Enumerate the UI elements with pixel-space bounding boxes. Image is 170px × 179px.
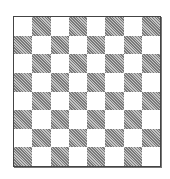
board-square[interactable] [105,17,123,36]
board-square[interactable] [69,92,87,111]
board-square[interactable] [32,92,50,111]
board-square[interactable] [124,92,142,111]
board-square[interactable] [87,36,105,55]
board-square[interactable] [142,73,160,92]
board-square[interactable] [105,129,123,148]
board-square[interactable] [32,110,50,129]
board-square[interactable] [124,129,142,148]
board-square[interactable] [87,54,105,73]
board-square[interactable] [32,36,50,55]
board-square[interactable] [14,73,32,92]
board-square[interactable] [87,92,105,111]
board-square[interactable] [87,73,105,92]
board-square[interactable] [14,54,32,73]
board-square[interactable] [32,147,50,166]
board-square[interactable] [87,129,105,148]
board-square[interactable] [87,147,105,166]
board-square[interactable] [105,36,123,55]
board-square[interactable] [69,129,87,148]
board-square[interactable] [69,147,87,166]
board-square[interactable] [124,36,142,55]
board-square[interactable] [105,92,123,111]
board-square[interactable] [14,92,32,111]
board-square[interactable] [124,73,142,92]
board-square[interactable] [32,129,50,148]
board-square[interactable] [105,73,123,92]
board-square[interactable] [51,17,69,36]
board-square[interactable] [51,36,69,55]
board-square[interactable] [32,54,50,73]
board-square[interactable] [51,129,69,148]
board-square[interactable] [142,17,160,36]
board-square[interactable] [14,129,32,148]
board-square[interactable] [142,36,160,55]
board-square[interactable] [32,17,50,36]
board-square[interactable] [69,73,87,92]
board-square[interactable] [14,147,32,166]
board-square[interactable] [87,110,105,129]
board-square[interactable] [105,110,123,129]
board-square[interactable] [69,110,87,129]
board-square[interactable] [14,17,32,36]
board-square[interactable] [69,54,87,73]
board-square[interactable] [142,147,160,166]
board-square[interactable] [142,92,160,111]
board-square[interactable] [69,17,87,36]
checkerboard [13,16,161,167]
board-square[interactable] [51,73,69,92]
board-square[interactable] [14,110,32,129]
board-square[interactable] [142,129,160,148]
board-square[interactable] [51,147,69,166]
board-square[interactable] [142,110,160,129]
board-square[interactable] [105,147,123,166]
board-square[interactable] [69,36,87,55]
board-square[interactable] [51,110,69,129]
board-square[interactable] [105,54,123,73]
board-square[interactable] [51,92,69,111]
board-square[interactable] [14,36,32,55]
board-square[interactable] [142,54,160,73]
board-square[interactable] [124,17,142,36]
board-square[interactable] [32,73,50,92]
board-square[interactable] [124,54,142,73]
board-square[interactable] [87,17,105,36]
board-square[interactable] [124,110,142,129]
board-square[interactable] [124,147,142,166]
board-square[interactable] [51,54,69,73]
